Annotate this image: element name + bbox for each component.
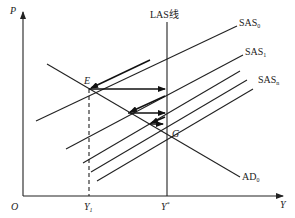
p-axis-label: P (9, 5, 16, 16)
ad0-curve (47, 64, 240, 177)
y-axis-label: Y (280, 199, 287, 210)
las-label: LAS线 (150, 8, 179, 20)
y1-tick-label: Y1 (84, 201, 93, 213)
adjustment-arrows (89, 60, 165, 124)
ystar-tick-label: Y* (161, 201, 170, 212)
point-e-label: E (83, 75, 90, 86)
point-g-label: G (172, 128, 179, 139)
sas0-curve (36, 26, 237, 121)
sas0-label: SAS0 (239, 17, 260, 29)
sas1-label: SAS1 (245, 46, 266, 58)
origin-label: O (11, 201, 18, 212)
ad0-label: AD0 (242, 171, 259, 183)
ad-as-diagram: P Y O Y1 Y* LAS线 SAS0 SAS1 SASn AD0 E G (0, 0, 295, 218)
sasn-label: SASn (258, 74, 279, 86)
sas-intermediate-curve (83, 71, 240, 163)
